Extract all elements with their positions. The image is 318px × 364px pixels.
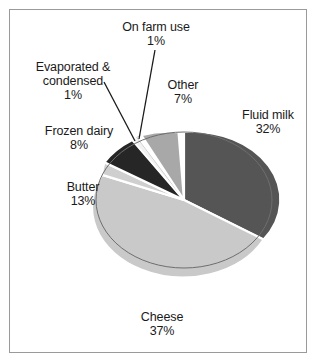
slice-label-other-percent: 7%: [148, 92, 218, 106]
slice-label-frozen-dairy-percent: 8%: [22, 138, 136, 152]
slice-label-cheese-percent: 37%: [112, 324, 212, 338]
slice-label-fluid-milk: Fluid milk 32%: [222, 108, 314, 136]
slice-label-on-farm-use-name: On farm use: [96, 20, 216, 34]
slice-label-evaporated-condensed-percent: 1%: [8, 88, 138, 102]
slice-label-fluid-milk-name: Fluid milk: [222, 108, 314, 122]
slice-label-cheese-name: Cheese: [112, 310, 212, 324]
pie-chart-image: On farm use 1% Evaporated & condensed 1%…: [0, 0, 318, 364]
slice-label-on-farm-use-percent: 1%: [96, 34, 216, 48]
slice-label-evaporated-condensed-name-line1: Evaporated &: [8, 60, 138, 74]
chart-area: On farm use 1% Evaporated & condensed 1%…: [0, 0, 318, 364]
slice-label-evaporated-condensed-name-line2: condensed: [8, 74, 138, 88]
slice-label-on-farm-use: On farm use 1%: [96, 20, 216, 48]
slice-label-other: Other 7%: [148, 78, 218, 106]
slice-label-butter: Butter 13%: [38, 180, 128, 208]
slice-label-butter-percent: 13%: [38, 194, 128, 208]
slice-label-evaporated-condensed: Evaporated & condensed 1%: [8, 60, 138, 102]
slice-label-other-name: Other: [148, 78, 218, 92]
slice-label-frozen-dairy-name: Frozen dairy: [22, 124, 136, 138]
slice-label-fluid-milk-percent: 32%: [222, 122, 314, 136]
slice-label-cheese: Cheese 37%: [112, 310, 212, 338]
slice-label-frozen-dairy: Frozen dairy 8%: [22, 124, 136, 152]
slice-label-butter-name: Butter: [38, 180, 128, 194]
